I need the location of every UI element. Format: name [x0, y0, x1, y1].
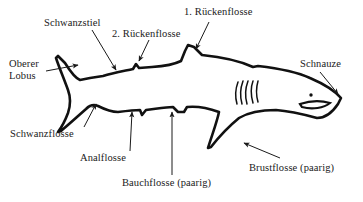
- shark-anatomy-figure: 1. Rückenflosse 2. Rückenflosse Schwanzs…: [0, 0, 363, 202]
- leader-line-dorsal-fin-2: [139, 40, 149, 61]
- shark-body-outline: [56, 45, 341, 148]
- label-snout: Schnauze: [300, 58, 341, 70]
- leader-line-pectoral-fin: [244, 143, 280, 158]
- label-caudal-peduncle: Schwanzstiel: [44, 17, 101, 29]
- label-dorsal-fin-1: 1. Rückenflosse: [184, 6, 253, 18]
- leader-line-upper-lobe: [46, 65, 78, 71]
- gill-slit: [246, 81, 248, 104]
- shark-body-group: [56, 45, 341, 148]
- label-anal-fin: Analflosse: [80, 152, 126, 164]
- leader-line-dorsal-fin-1: [196, 22, 209, 49]
- gill-slit: [236, 82, 238, 104]
- label-pectoral-fin: Brustflosse (paarig): [249, 162, 334, 174]
- label-pelvic-fin: Bauchflosse (paarig): [122, 177, 211, 189]
- label-dorsal-fin-2: 2. Rückenflosse: [112, 28, 181, 40]
- gill-slit: [241, 81, 243, 104]
- label-upper-lobe-line1: Oberer: [9, 58, 39, 70]
- gill-slits-group: [236, 81, 258, 104]
- leader-line-anal-fin: [130, 112, 132, 151]
- label-upper-lobe-line2: Lobus: [9, 70, 39, 82]
- gill-slit: [251, 81, 253, 103]
- gill-slit: [257, 81, 259, 102]
- label-caudal-fin: Schwanzflosse: [10, 128, 74, 140]
- shark-eye: [309, 93, 312, 96]
- label-upper-lobe: Oberer Lobus: [9, 58, 39, 81]
- shark-mouth: [300, 101, 330, 108]
